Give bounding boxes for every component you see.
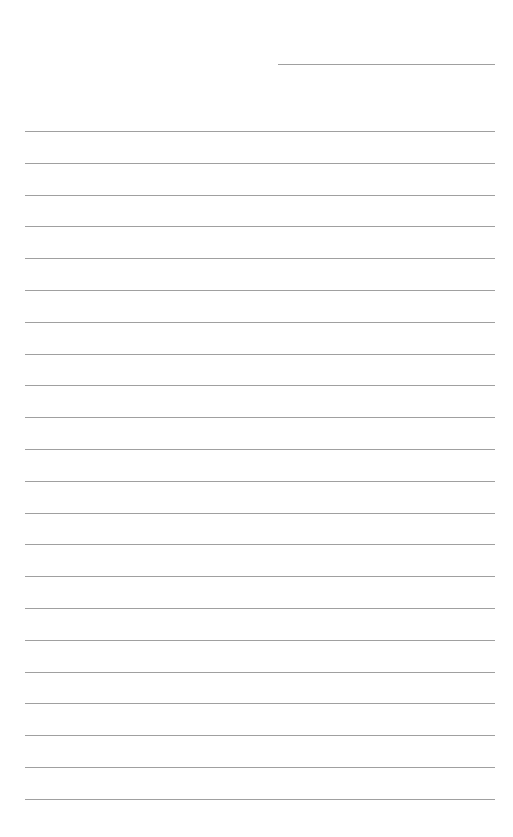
ruled-line bbox=[25, 258, 495, 259]
ruled-line bbox=[25, 195, 495, 196]
ruled-line bbox=[25, 385, 495, 386]
header-date-line bbox=[278, 64, 495, 65]
ruled-line bbox=[25, 513, 495, 514]
ruled-line bbox=[25, 163, 495, 164]
ruled-line bbox=[25, 640, 495, 641]
ruled-line bbox=[25, 226, 495, 227]
ruled-line bbox=[25, 449, 495, 450]
ruled-line bbox=[25, 799, 495, 800]
ruled-line bbox=[25, 481, 495, 482]
ruled-line bbox=[25, 767, 495, 768]
ruled-line bbox=[25, 608, 495, 609]
ruled-line bbox=[25, 322, 495, 323]
ruled-line bbox=[25, 131, 495, 132]
ruled-line bbox=[25, 735, 495, 736]
ruled-line bbox=[25, 703, 495, 704]
ruled-line bbox=[25, 576, 495, 577]
ruled-line bbox=[25, 672, 495, 673]
ruled-line bbox=[25, 354, 495, 355]
ruled-line bbox=[25, 417, 495, 418]
lined-paper-page bbox=[0, 0, 513, 837]
ruled-line bbox=[25, 544, 495, 545]
ruled-line bbox=[25, 290, 495, 291]
